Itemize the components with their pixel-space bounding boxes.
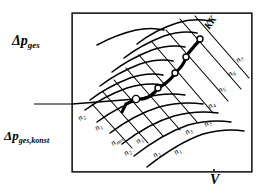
characteristic-map-svg: n2 n1 nmax n1 n2 n2 n1 n3 n3 n4 n5 <box>0 0 267 196</box>
figure-root: n2 n1 nmax n1 n2 n2 n1 n3 n3 n4 n5 <box>0 0 267 196</box>
y2-axis-label: Δpges,konst <box>4 128 49 145</box>
y-axis-label-main: Δp <box>12 33 28 48</box>
y-axis-label-sub: ges <box>28 40 40 50</box>
x-axis-label-main: V <box>210 172 219 187</box>
y2-axis-label-main: Δp <box>4 128 19 143</box>
x-axis-label: V <box>210 172 219 188</box>
y2-axis-label-sub: ges,konst <box>19 136 49 145</box>
y-axis-label: Δpges <box>12 33 40 50</box>
